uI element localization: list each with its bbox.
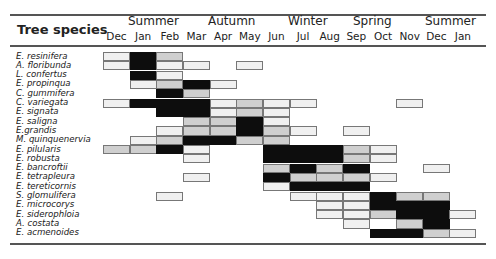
- flowering-cell: [156, 126, 183, 135]
- flowering-cell: [370, 173, 397, 182]
- flowering-cell: [263, 99, 290, 108]
- flowering-cell: [316, 154, 343, 163]
- flowering-cell: [236, 136, 263, 145]
- flowering-cell: [343, 201, 370, 210]
- flowering-cell: [263, 108, 290, 117]
- flowering-cell: [263, 126, 290, 135]
- flowering-cell: [183, 89, 210, 98]
- flowering-cell: [183, 117, 210, 126]
- flowering-cell: [423, 201, 450, 210]
- flowering-cell: [370, 229, 397, 238]
- flowering-cell: [130, 136, 157, 145]
- month-label: Jul: [290, 30, 317, 42]
- month-label: Jan: [449, 30, 476, 42]
- flowering-cell: [343, 145, 370, 154]
- flowering-cell: [290, 145, 317, 154]
- month-label: Jan: [130, 30, 157, 42]
- flowering-cell: [290, 154, 317, 163]
- flowering-cell: [343, 173, 370, 182]
- flowering-cell: [210, 136, 237, 145]
- flowering-cell: [449, 229, 476, 238]
- flowering-cell: [343, 126, 370, 135]
- flowering-cell: [370, 154, 397, 163]
- flowering-cell: [316, 201, 343, 210]
- flowering-cell: [210, 126, 237, 135]
- flowering-cell: [343, 154, 370, 163]
- flowering-cell: [423, 192, 450, 201]
- flowering-cell: [156, 192, 183, 201]
- flowering-cell: [263, 117, 290, 126]
- bottom-rule: [10, 243, 486, 245]
- flowering-cell: [156, 89, 183, 98]
- flowering-cell: [423, 164, 450, 173]
- flowering-cell: [130, 99, 157, 108]
- flowering-cell: [263, 173, 290, 182]
- flowering-cell: [236, 117, 263, 126]
- species-label: M. quinquenervia: [16, 135, 91, 144]
- flowering-cell: [370, 192, 397, 201]
- month-label: Feb: [156, 30, 183, 42]
- flowering-cell: [156, 52, 183, 61]
- flowering-cell: [210, 108, 237, 117]
- flowering-cell: [263, 182, 290, 191]
- season-label: Winter: [288, 14, 328, 28]
- flowering-cell: [183, 108, 210, 117]
- flowering-cell: [343, 192, 370, 201]
- flowering-cell: [183, 173, 210, 182]
- flowering-cell: [423, 219, 450, 228]
- column-title: Tree species: [17, 22, 108, 37]
- flowering-cell: [156, 61, 183, 70]
- flowering-cell: [183, 80, 210, 89]
- flowering-cell: [396, 192, 423, 201]
- flowering-cell: [290, 192, 317, 201]
- flowering-cell: [130, 71, 157, 80]
- flowering-cell: [370, 210, 397, 219]
- flowering-cell: [263, 154, 290, 163]
- flowering-cell: [290, 99, 317, 108]
- flowering-cell: [236, 99, 263, 108]
- flowering-cell: [343, 164, 370, 173]
- flowering-cell: [423, 229, 450, 238]
- month-label: May: [236, 30, 263, 42]
- flowering-cell: [210, 117, 237, 126]
- flowering-cell: [290, 164, 317, 173]
- flowering-cell: [103, 52, 130, 61]
- flowering-cell: [156, 99, 183, 108]
- flowering-cell: [396, 219, 423, 228]
- flowering-cell: [290, 173, 317, 182]
- month-label: Sep: [343, 30, 370, 42]
- flowering-cell: [156, 145, 183, 154]
- flowering-cell: [343, 219, 370, 228]
- flowering-cell: [370, 145, 397, 154]
- flowering-cell: [236, 108, 263, 117]
- flowering-cell: [396, 229, 423, 238]
- month-label: Apr: [210, 30, 237, 42]
- season-label: Summer: [128, 14, 179, 28]
- month-label: Dec: [423, 30, 450, 42]
- flowering-cell: [130, 61, 157, 70]
- flowering-cell: [156, 71, 183, 80]
- month-label: Jun: [263, 30, 290, 42]
- flowering-cell: [343, 210, 370, 219]
- flowering-cell: [103, 61, 130, 70]
- flowering-cell: [396, 210, 423, 219]
- flowering-cell: [449, 210, 476, 219]
- month-label: Mar: [183, 30, 210, 42]
- flowering-cell: [130, 80, 157, 89]
- month-label: Dec: [103, 30, 130, 42]
- flowering-cell: [316, 192, 343, 201]
- flowering-cell: [396, 99, 423, 108]
- species-label: E. acmenoides: [16, 228, 79, 237]
- flowering-cell: [130, 52, 157, 61]
- flowering-cell: [183, 145, 210, 154]
- flowering-cell: [316, 210, 343, 219]
- flowering-cell: [236, 61, 263, 70]
- flowering-cell: [290, 126, 317, 135]
- flowering-cell: [156, 136, 183, 145]
- flowering-cell: [156, 108, 183, 117]
- flowering-cell: [316, 173, 343, 182]
- flowering-cell: [316, 164, 343, 173]
- flowering-cell: [183, 126, 210, 135]
- flowering-cell: [103, 145, 130, 154]
- flowering-cell: [263, 136, 290, 145]
